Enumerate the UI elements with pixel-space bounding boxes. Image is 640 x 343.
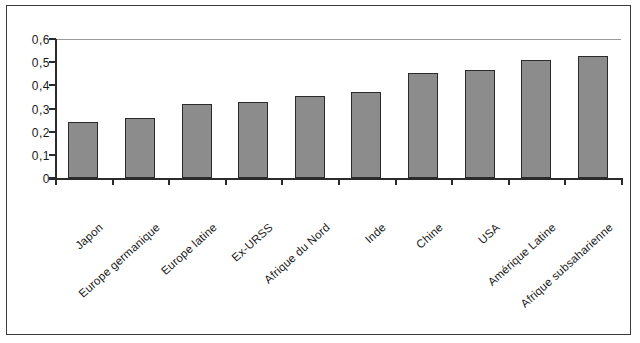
y-axis-tick <box>49 131 56 133</box>
y-axis-tick-label: 0,6 <box>32 33 50 47</box>
bar <box>465 70 495 178</box>
x-axis-category-label: Afrique subsaharienne <box>518 221 615 310</box>
y-axis-tick <box>49 84 56 86</box>
x-axis-category-label: USA <box>475 221 501 246</box>
x-axis-category-label: Chine <box>414 221 445 251</box>
x-axis-line <box>49 178 621 180</box>
x-axis-tick <box>112 178 114 185</box>
bar <box>578 56 608 178</box>
y-axis-tick <box>49 108 56 110</box>
x-axis-tick <box>168 178 170 185</box>
bar <box>521 60 551 178</box>
bar <box>351 92 381 178</box>
bar <box>68 122 98 178</box>
y-axis-tick-label: 0,1 <box>32 149 50 163</box>
y-axis-tick <box>49 61 56 63</box>
x-axis-tick <box>281 178 283 185</box>
bar <box>125 118 155 178</box>
y-axis-tick-label: 0,2 <box>32 126 50 140</box>
y-axis-tick <box>49 38 56 40</box>
x-axis-tick <box>564 178 566 185</box>
gridline-top <box>55 39 621 40</box>
x-axis-tick <box>508 178 510 185</box>
bar <box>408 73 438 178</box>
y-axis-tick-label: 0,4 <box>32 79 50 93</box>
y-axis-tick-label: 0,3 <box>32 103 50 117</box>
chart-frame: 0,60,50,40,30,20,10 JaponEurope germaniq… <box>6 5 631 335</box>
x-axis-tick <box>451 178 453 185</box>
bar <box>295 96 325 178</box>
x-axis-tick <box>55 178 57 185</box>
x-axis-category-label: Japon <box>73 221 105 252</box>
y-axis-tick-label: 0 <box>43 172 50 186</box>
bar <box>238 102 268 178</box>
y-axis-tick-label: 0,5 <box>32 56 50 70</box>
x-axis-tick <box>395 178 397 185</box>
plot-area: 0,60,50,40,30,20,10 JaponEurope germaniq… <box>55 39 621 178</box>
x-axis-category-label: Ex-URSS <box>229 221 275 264</box>
x-axis-tick <box>338 178 340 185</box>
x-axis-category-label: Europe latine <box>158 221 218 277</box>
bar <box>182 104 212 178</box>
x-axis-tick <box>225 178 227 185</box>
x-axis-category-label: Inde <box>363 221 388 245</box>
x-axis-tick <box>621 178 623 185</box>
y-axis-tick <box>49 154 56 156</box>
